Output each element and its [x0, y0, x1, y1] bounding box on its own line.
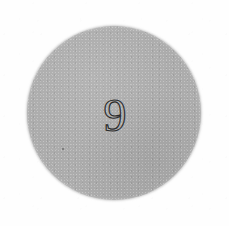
disc-fill [27, 26, 201, 200]
image-canvas: 9 [0, 0, 229, 226]
ink-speck [62, 148, 64, 150]
gray-disc [27, 26, 201, 200]
